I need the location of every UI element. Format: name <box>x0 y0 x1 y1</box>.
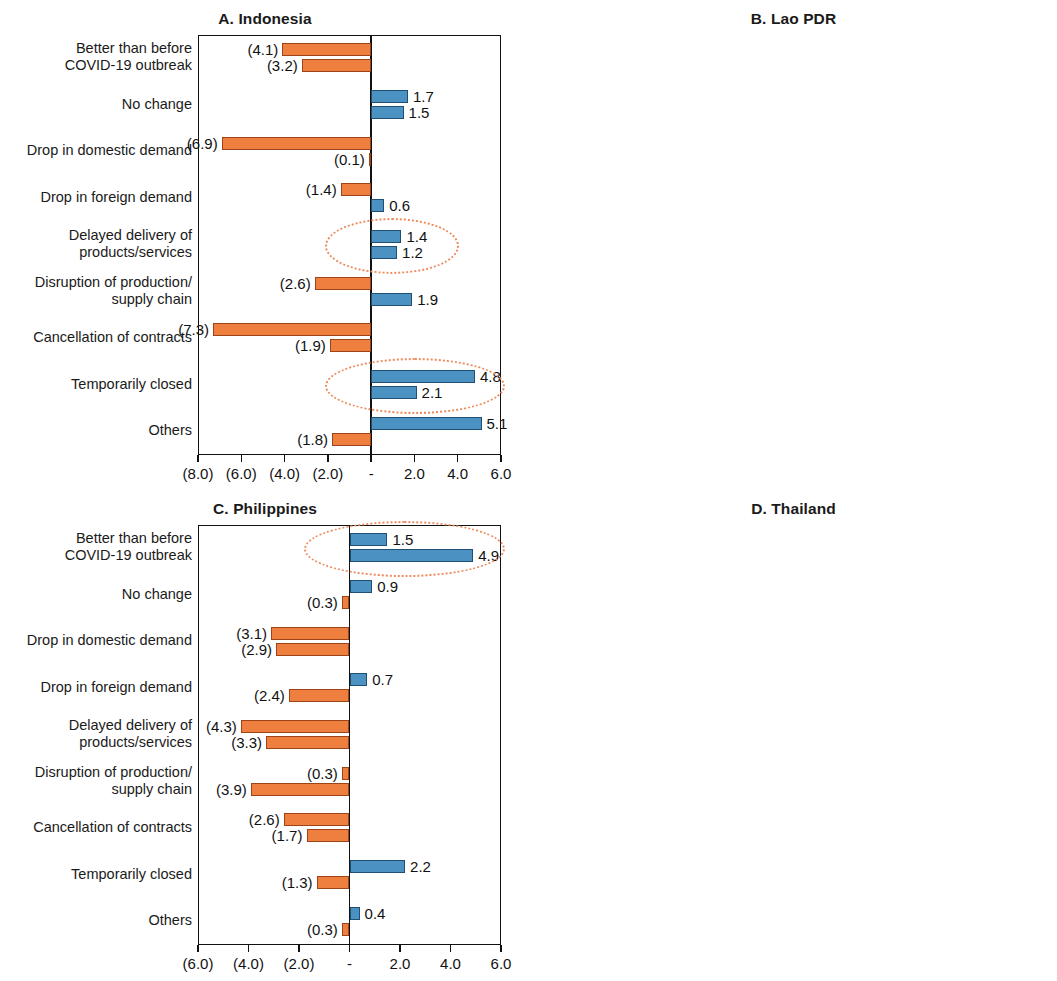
value-label-p1-r8-s1: (1.8) <box>297 432 328 447</box>
plot-area <box>198 35 501 455</box>
bar-p1-r2-s1 <box>369 153 371 166</box>
category-label-2: Drop in domestic demand <box>534 632 1057 649</box>
category-label-8: Others <box>4 912 192 929</box>
panel-4: D. ThailandBetter than beforeCOVID-19 ou… <box>530 490 1057 980</box>
x-tick-5 <box>450 945 451 952</box>
value-label-p1-r0-s1: (3.2) <box>267 58 298 73</box>
bar-p1-r0-s1 <box>302 59 371 72</box>
category-label-4: Delayed delivery ofproducts/services <box>534 227 1057 261</box>
category-label-1: No change <box>534 586 1057 603</box>
value-label-p1-r2-s0: (6.9) <box>187 136 218 151</box>
value-label-p1-r4-s1: 1.2 <box>402 245 423 260</box>
value-label-p1-r7-s0: 4.8 <box>480 369 501 384</box>
value-label-p1-r7-s1: 2.1 <box>422 385 443 400</box>
panel-title: D. Thailand <box>530 500 1057 518</box>
value-label-p3-r4-s1: (3.3) <box>231 735 262 750</box>
value-label-p3-r3-s0: 0.7 <box>372 672 393 687</box>
bar-p1-r3-s0 <box>341 183 371 196</box>
panel-3: C. PhilippinesBetter than beforeCOVID-19… <box>0 490 530 980</box>
bar-p1-r1-s0 <box>371 90 408 103</box>
bar-p1-r8-s0 <box>371 417 481 430</box>
panel-1: A. IndonesiaBetter than beforeCOVID-19 o… <box>0 0 530 490</box>
bar-p3-r1-s0 <box>350 580 373 593</box>
category-label-0: Better than beforeCOVID-19 outbreak <box>4 40 192 74</box>
bar-p1-r0-s0 <box>282 43 371 56</box>
bar-p1-r2-s0 <box>222 137 371 150</box>
category-label-0: Better than beforeCOVID-19 outbreak <box>534 530 1057 564</box>
value-label-p3-r2-s0: (3.1) <box>236 626 267 641</box>
bar-p3-r7-s0 <box>350 860 406 873</box>
category-label-7: Temporarily closed <box>534 866 1057 883</box>
value-label-p1-r4-s0: 1.4 <box>406 229 427 244</box>
value-label-p3-r7-s0: 2.2 <box>410 859 431 874</box>
x-tick-1 <box>248 945 249 952</box>
bar-p1-r6-s1 <box>330 339 371 352</box>
category-label-8: Others <box>4 422 192 439</box>
category-label-7: Temporarily closed <box>4 866 192 883</box>
bar-p1-r5-s1 <box>371 293 412 306</box>
category-label-1: No change <box>4 586 192 603</box>
category-label-0: Better than beforeCOVID-19 outbreak <box>4 530 192 564</box>
bar-p3-r0-s0 <box>350 533 388 546</box>
value-label-p1-r8-s0: 5.1 <box>487 416 508 431</box>
value-label-p1-r3-s1: 0.6 <box>389 198 410 213</box>
value-label-p3-r4-s0: (4.3) <box>206 719 237 734</box>
value-label-p3-r8-s0: 0.4 <box>365 906 386 921</box>
category-label-3: Drop in foreign demand <box>534 189 1057 206</box>
value-label-p1-r6-s0: (7.3) <box>178 322 209 337</box>
x-tick-label-6: 6.0 <box>465 955 537 972</box>
bar-p3-r7-s1 <box>317 876 350 889</box>
value-label-p3-r3-s1: (2.4) <box>254 688 285 703</box>
value-label-p1-r0-s0: (4.1) <box>247 42 278 57</box>
value-label-p3-r0-s1: 4.9 <box>478 548 499 563</box>
bar-p3-r5-s1 <box>251 783 349 796</box>
bar-p3-r5-s0 <box>342 767 350 780</box>
bar-p1-r1-s1 <box>371 106 403 119</box>
value-label-p3-r5-s1: (3.9) <box>216 782 247 797</box>
bar-p3-r3-s1 <box>289 689 350 702</box>
category-label-5: Disruption of production/supply chain <box>4 764 192 798</box>
category-label-3: Drop in foreign demand <box>4 189 192 206</box>
value-label-p3-r5-s0: (0.3) <box>307 766 338 781</box>
value-label-p1-r5-s0: (2.6) <box>280 276 311 291</box>
value-label-p1-r6-s1: (1.9) <box>295 338 326 353</box>
x-tick-6 <box>457 455 458 462</box>
x-tick-2 <box>284 455 285 462</box>
category-label-4: Delayed delivery ofproducts/services <box>4 227 192 261</box>
panel-title: A. Indonesia <box>0 10 530 28</box>
category-label-8: Others <box>534 912 1057 929</box>
category-label-3: Drop in foreign demand <box>4 679 192 696</box>
category-label-2: Drop in domestic demand <box>4 142 192 159</box>
category-label-2: Drop in domestic demand <box>534 142 1057 159</box>
category-label-6: Cancellation of contracts <box>4 819 192 836</box>
category-label-4: Delayed delivery ofproducts/services <box>534 717 1057 751</box>
value-label-p1-r5-s1: 1.9 <box>417 292 438 307</box>
value-label-p3-r1-s0: 0.9 <box>377 579 398 594</box>
category-label-7: Temporarily closed <box>534 376 1057 393</box>
x-tick-label-7: 6.0 <box>465 465 537 482</box>
category-label-5: Disruption of production/supply chain <box>4 274 192 308</box>
bar-p1-r3-s1 <box>371 199 384 212</box>
bar-p1-r7-s0 <box>371 370 475 383</box>
category-label-6: Cancellation of contracts <box>4 329 192 346</box>
category-label-3: Drop in foreign demand <box>534 679 1057 696</box>
x-tick-1 <box>241 455 242 462</box>
bar-p1-r6-s0 <box>213 323 371 336</box>
value-label-p3-r6-s1: (1.7) <box>272 828 303 843</box>
category-label-6: Cancellation of contracts <box>534 819 1057 836</box>
bar-p3-r4-s0 <box>241 720 350 733</box>
x-tick-0 <box>197 945 198 952</box>
category-label-5: Disruption of production/supply chain <box>534 764 1057 798</box>
category-label-4: Delayed delivery ofproducts/services <box>4 717 192 751</box>
x-tick-7 <box>500 455 501 462</box>
x-tick-2 <box>298 945 299 952</box>
x-tick-3 <box>349 945 350 952</box>
value-label-p3-r2-s1: (2.9) <box>241 642 272 657</box>
x-tick-3 <box>327 455 328 462</box>
x-tick-5 <box>414 455 415 462</box>
category-label-6: Cancellation of contracts <box>534 329 1057 346</box>
bar-p3-r2-s1 <box>276 643 349 656</box>
value-label-p3-r6-s0: (2.6) <box>249 812 280 827</box>
category-label-7: Temporarily closed <box>4 376 192 393</box>
bar-p1-r5-s0 <box>315 277 371 290</box>
